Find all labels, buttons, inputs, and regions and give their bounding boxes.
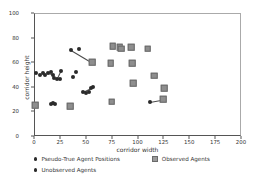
data-point [109,43,116,50]
y-axis-label: corridor height [23,38,30,118]
x-tick-label-5: 125 [158,139,168,145]
x-axis-label: corridor width [34,146,241,153]
data-point [91,85,95,89]
x-tick-mark-7 [215,136,216,139]
legend-label: Pseudo-True Agent Positions [41,156,119,162]
y-tick-mark-4 [31,37,34,38]
legend-item-0[interactable]: Pseudo-True Agent Positions [34,156,120,162]
legend-marker-square-icon [152,156,158,162]
x-tick-mark-3 [111,136,112,139]
x-tick-mark-8 [241,136,242,139]
x-tick-mark-5 [163,136,164,139]
y-tick-label-5: 100 [9,10,19,16]
data-point [148,100,152,104]
x-tick-label-7: 175 [210,139,220,145]
data-point [67,103,74,110]
data-point [130,80,137,87]
data-point [71,75,75,79]
data-point [118,45,125,52]
x-tick-mark-0 [34,136,35,139]
x-tick-mark-6 [189,136,190,139]
data-point [160,96,167,103]
y-tick-mark-5 [31,13,34,14]
y-tick-label-4: 80 [12,35,19,41]
y-tick-mark-3 [31,62,34,63]
data-point [108,98,115,105]
x-tick-label-3: 75 [108,139,115,145]
x-tick-label-6: 150 [184,139,194,145]
data-point [129,60,136,67]
data-point [53,102,57,106]
y-tick-label-3: 60 [12,59,19,65]
legend-label: Unobserved Agents [41,167,96,173]
data-point [161,85,168,92]
y-tick-label-1: 20 [12,108,19,114]
legend-marker-dot-icon [34,157,37,160]
legend-marker-dot-icon [34,168,37,171]
data-point [58,77,62,81]
data-point [32,102,39,109]
scatter-chart-figure: 020406080100 0255075100125150175200 corr… [0,0,256,182]
data-point [74,70,78,74]
y-tick-label-2: 40 [12,84,19,90]
data-point [59,69,63,73]
x-tick-label-1: 25 [56,139,63,145]
x-tick-mark-2 [85,136,86,139]
legend-label: Observed Agents [162,156,210,162]
data-point [145,45,152,52]
plot-area [34,13,241,136]
x-tick-label-2: 50 [82,139,89,145]
y-tick-mark-1 [31,111,34,112]
data-point [69,48,73,52]
data-point [89,59,96,66]
data-point [77,47,81,51]
x-tick-label-0: 0 [32,139,35,145]
x-tick-label-8: 200 [236,139,246,145]
data-point [107,60,114,67]
y-tick-label-0: 0 [16,133,19,139]
x-tick-mark-4 [137,136,138,139]
data-point [87,90,91,94]
legend-item-1[interactable]: Observed Agents [152,156,210,162]
x-tick-label-4: 100 [132,139,142,145]
x-tick-mark-1 [59,136,60,139]
data-point [128,44,135,51]
chart-legend: Pseudo-True Agent PositionsObserved Agen… [34,156,244,180]
y-tick-mark-2 [31,86,34,87]
data-point [151,72,158,79]
legend-item-2[interactable]: Unobserved Agents [34,167,96,173]
